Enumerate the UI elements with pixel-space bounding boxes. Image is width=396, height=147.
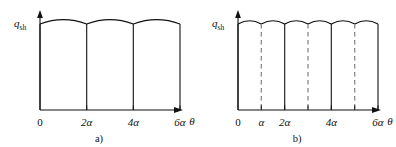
panel-b: qsh 0 α 2α 4α 6α θ b) [198,0,396,147]
x-axis-label: θ [189,115,195,127]
panel-b-plot: qsh 0 α 2α 4α 6α θ b) [198,0,396,147]
tick-label-0: 0 [37,116,43,128]
y-axis-label: qsh [14,17,26,32]
figure-root: qsh 0 2α 4α 6α θ a) [0,0,396,147]
tick-label-2alpha: 2α [81,116,93,128]
tick-label-6alpha: 6α [372,116,384,128]
y-axis-arrow-icon [235,10,241,18]
waveform-curve [238,21,378,24]
x-axis-arrow-icon [174,107,183,113]
panel-b-caption: b) [293,133,302,145]
y-axis-arrow-icon [37,10,43,18]
tick-label-4alpha: 4α [326,116,338,128]
x-axis-label: θ [387,115,393,127]
tick-label-0: 0 [235,116,241,128]
tick-label-6alpha: 6α [174,116,186,128]
tick-label-1alpha: α [258,116,264,128]
panel-a-plot: qsh 0 2α 4α 6α θ a) [0,0,198,147]
tick-label-2alpha: 2α [279,116,291,128]
waveform-curve [40,20,180,24]
tick-label-4alpha: 4α [128,116,140,128]
panel-a: qsh 0 2α 4α 6α θ a) [0,0,198,147]
y-axis-label: qsh [212,17,224,32]
panel-a-caption: a) [95,133,104,145]
x-axis-arrow-icon [372,107,381,113]
